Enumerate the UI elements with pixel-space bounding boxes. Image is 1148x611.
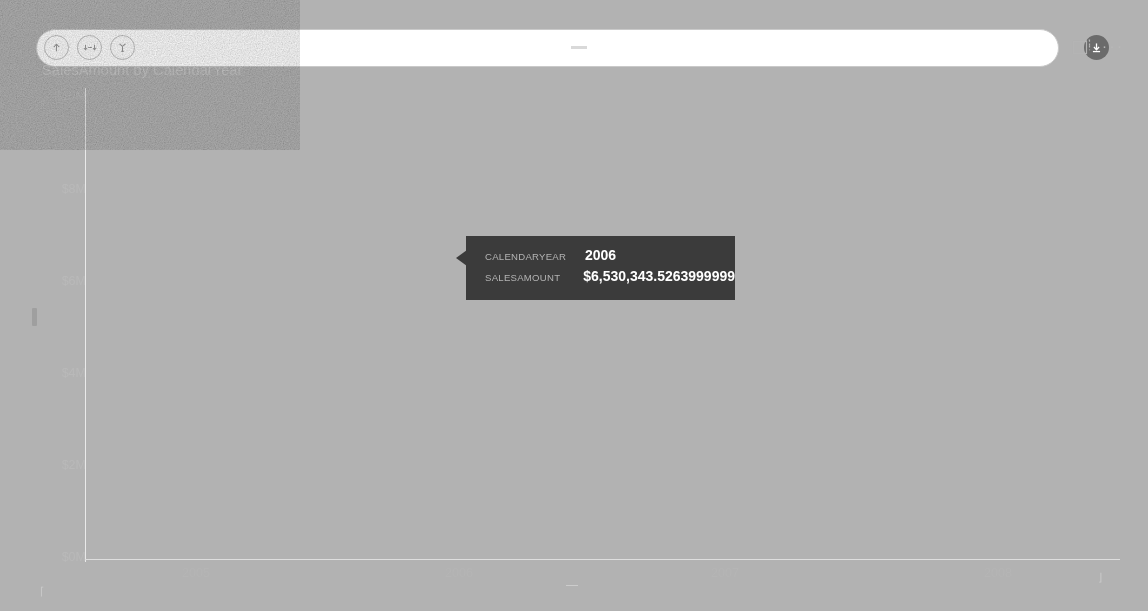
drill-up-icon[interactable]: [44, 35, 69, 60]
tooltip-pointer: [456, 250, 467, 266]
tooltip-field-label: SALESAMOUNT: [485, 272, 575, 283]
tooltip-row: CALENDARYEAR 2006: [485, 247, 735, 268]
visual-header-toolbar: ···: [36, 29, 1121, 67]
x-tick-label: 2008: [938, 566, 1058, 580]
y-tick-label: $8M: [30, 182, 86, 196]
focus-mode-icon[interactable]: [1071, 37, 1093, 58]
x-tick-label: 2007: [665, 566, 785, 580]
x-axis-line: [85, 559, 1120, 560]
toolbar-center-mark: [571, 46, 587, 49]
y-tick-label: $2M: [30, 458, 86, 472]
canvas-bottom-mark: ―: [566, 578, 578, 592]
report-canvas: $10M $8M $6M $4M $2M $0M 2005 2006 2007 …: [0, 0, 1148, 611]
y-tick-label: $4M: [30, 366, 86, 380]
y-tick-label: $10M: [30, 89, 86, 103]
tooltip-field-label: CALENDARYEAR: [485, 251, 577, 262]
x-tick-label: 2006: [399, 566, 519, 580]
canvas-corner-mark-bottom-right: ⌋: [1098, 572, 1102, 582]
bar-2007[interactable]: [622, 97, 826, 558]
chart-tooltip: CALENDARYEAR 2006 SALESAMOUNT $6,530,343…: [466, 236, 735, 300]
scrollbar-handle[interactable]: [32, 308, 37, 326]
bar-2008[interactable]: [884, 99, 1110, 558]
x-tick-label: 2005: [136, 566, 256, 580]
toolbar-background: [36, 29, 1059, 67]
y-axis-line: [85, 88, 86, 562]
more-options-icon[interactable]: ···: [1102, 39, 1125, 53]
tooltip-row: SALESAMOUNT $6,530,343.5263999999: [485, 268, 735, 289]
bar-2005[interactable]: [88, 400, 303, 558]
drill-mode-split-arrow-icon[interactable]: [110, 35, 135, 60]
tooltip-field-value: 2006: [577, 247, 616, 263]
bar-chart-plot: $10M $8M $6M $4M $2M $0M 2005 2006 2007 …: [0, 0, 1148, 611]
drill-controls-group: [44, 35, 135, 60]
drill-down-double-arrow-icon[interactable]: [77, 35, 102, 60]
y-tick-label: $6M: [30, 274, 86, 288]
tooltip-field-value: $6,530,343.5263999999: [575, 268, 735, 284]
y-tick-label: $0M: [30, 550, 86, 564]
canvas-corner-mark-bottom-left: ⌈: [40, 586, 44, 596]
